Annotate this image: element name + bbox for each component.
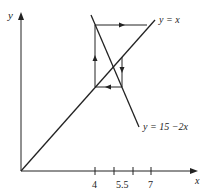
arrow-left-icon [105,85,111,90]
y-axis-arrow-icon [18,12,24,20]
line-label-y-equals-x: y = x [158,14,180,25]
x-axis-label: x [194,175,200,186]
x-axis [21,168,198,174]
x-axis-arrow-icon [190,168,198,174]
tick-label-7: 7 [148,179,153,190]
tick-label-5-5: 5.5 [116,179,129,190]
y-axis-label: y [7,9,13,21]
tick-label-4: 4 [92,179,97,190]
y-axis [18,12,24,171]
line-y-equals-x [21,20,155,171]
line-y-equals-15-minus-2x [91,15,139,127]
cobweb-path [95,25,147,87]
cobweb-diagram: y x 4 5.5 7 y = x y = 15 −2x [0,0,211,196]
line-label-y-equals-15-minus-2x: y = 15 −2x [142,121,188,132]
arrow-up-icon [93,55,98,61]
arrow-right-icon [119,23,125,28]
arrow-down-icon [120,67,125,73]
